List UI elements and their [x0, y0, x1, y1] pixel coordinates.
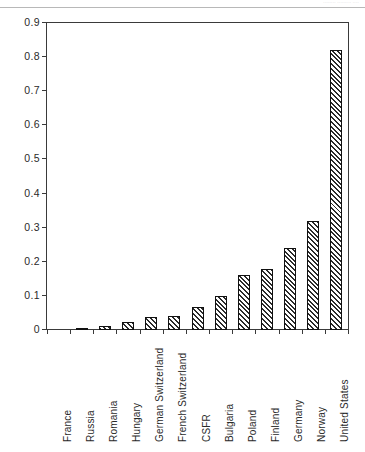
y-tick-label: 0.8: [24, 51, 40, 61]
x-tick-label: Norway: [317, 407, 327, 442]
x-tick-mark: [186, 330, 187, 334]
bar: [307, 221, 319, 330]
bar: [261, 269, 273, 330]
x-tick-label: Germany: [294, 399, 304, 442]
x-tick-mark: [116, 330, 117, 334]
x-tick-mark: [163, 330, 164, 334]
bar: [330, 50, 342, 330]
x-axis-ticks: [47, 330, 348, 335]
x-tick-mark: [279, 330, 280, 334]
x-tick-label: Russia: [86, 410, 96, 442]
bar: [145, 317, 157, 330]
y-tick-label: 0.9: [24, 17, 40, 27]
x-tick-mark: [348, 330, 349, 334]
x-tick-mark: [325, 330, 326, 334]
x-tick-label: France: [63, 410, 73, 442]
bar: [284, 248, 296, 330]
y-tick-label: 0.6: [24, 119, 40, 129]
bar: [168, 316, 180, 330]
bar: [192, 307, 204, 330]
x-tick-mark: [255, 330, 256, 334]
x-tick-mark: [232, 330, 233, 334]
x-tick-label: Romania: [109, 401, 119, 442]
x-tick-label: United States: [340, 379, 350, 442]
x-tick-mark: [209, 330, 210, 334]
x-tick-mark: [302, 330, 303, 334]
bars-layer: [47, 23, 348, 330]
x-tick-label: Poland: [248, 410, 258, 442]
y-tick-label: 0.1: [24, 290, 40, 300]
x-tick-label: CSFR: [202, 414, 212, 442]
x-tick-label: Bulgaria: [225, 404, 235, 442]
x-axis-labels: FranceRussiaRomaniaHungaryGerman Switzer…: [47, 336, 348, 448]
y-axis: 0.90.80.70.60.50.40.30.20.10: [0, 0, 46, 340]
bar-chart-figure: 0.90.80.70.60.50.40.30.20.10 hours Franc…: [0, 0, 365, 452]
y-tick-label: 0.2: [24, 256, 40, 266]
y-tick-label: 0.4: [24, 188, 40, 198]
x-tick-mark: [93, 330, 94, 334]
x-tick-mark: [140, 330, 141, 334]
x-tick-mark: [47, 330, 48, 334]
bar: [238, 275, 250, 330]
x-tick-label: French Switzerland: [178, 353, 188, 442]
bar: [122, 322, 134, 330]
x-tick-label: Hungary: [132, 403, 142, 442]
y-tick-label: 0.5: [24, 153, 40, 163]
x-tick-label: Finland: [271, 408, 281, 442]
y-tick-label: 0.3: [24, 222, 40, 232]
y-tick-label: 0.7: [24, 85, 40, 95]
bar: [215, 296, 227, 330]
y-tick-label: 0: [34, 324, 40, 334]
x-tick-label: German Switzerland: [155, 348, 165, 442]
x-tick-mark: [70, 330, 71, 334]
